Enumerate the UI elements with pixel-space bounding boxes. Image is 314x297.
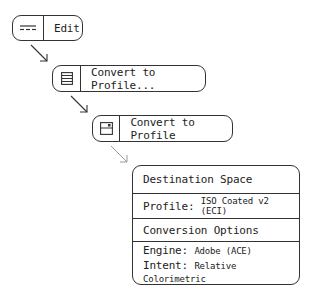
step-label: Convert to Profile... [81, 66, 205, 91]
arrow-icon [110, 145, 130, 165]
conversion-options-body: Engine: Adobe (ACE) Intent: Relative Col… [133, 242, 299, 286]
convert-to-profile-menu-item[interactable]: Convert to Profile... [52, 65, 206, 92]
intent-row[interactable]: Intent: Relative Colorimetric [143, 259, 299, 285]
profile-row[interactable]: Profile: ISO Coated v2 (ECI) [133, 194, 299, 219]
menu-bar-icon [13, 16, 44, 40]
arrow-icon [30, 44, 50, 64]
conversion-options-header: Conversion Options [133, 219, 299, 242]
destination-space-header: Destination Space [133, 166, 299, 194]
edit-menu-step[interactable]: Edit [12, 15, 83, 41]
profile-value: ISO Coated v2 (ECI) [201, 196, 299, 216]
menu-list-icon [53, 66, 81, 91]
engine-row[interactable]: Engine: Adobe (ACE) [143, 244, 252, 257]
arrow-icon [70, 95, 90, 115]
convert-to-profile-panel: Destination Space Profile: ISO Coated v2… [132, 165, 300, 285]
convert-to-profile-dialog-step[interactable]: Convert to Profile [92, 115, 233, 142]
step-label: Convert to Profile [120, 116, 232, 141]
dialog-window-icon [93, 116, 120, 141]
step-label: Edit [44, 16, 80, 40]
